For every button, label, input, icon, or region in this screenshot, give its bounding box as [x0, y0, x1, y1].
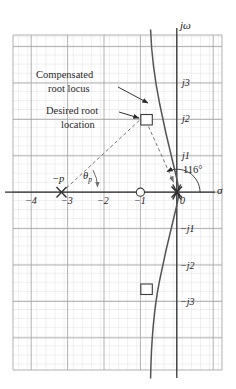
- tick-imag-minus-j3: −j3: [180, 297, 195, 307]
- annotation-desired-root-location-line1: Desired root: [46, 106, 98, 117]
- real-axis-label: σ: [217, 185, 222, 196]
- marker-desired-root-upper: [141, 115, 153, 126]
- root-locus-figure: jω σ Compensated root locus Desired root…: [0, 0, 236, 389]
- imaginary-axis-label: jω: [180, 20, 191, 31]
- marker-desired-root-lower: [141, 284, 153, 295]
- tick-real-minus-2: −2: [97, 196, 109, 206]
- theta-subscript: p: [88, 175, 92, 184]
- tick-real-minus-4: −4: [25, 196, 37, 206]
- tick-imag-j1: j1: [182, 151, 190, 161]
- angle-116-label: 116°: [183, 165, 203, 176]
- tick-real-minus-1: −1: [134, 196, 146, 206]
- tick-real-0: 0: [180, 196, 185, 206]
- tick-imag-minus-j1: −j1: [180, 224, 195, 234]
- tick-real-minus-3: −3: [61, 196, 73, 206]
- tick-imag-j2: j2: [182, 114, 190, 124]
- annotation-desired-root-location-line2: location: [61, 120, 95, 131]
- pole-label-minus-p: −p: [52, 174, 64, 185]
- annotation-compensated-root-locus-line1: Compensated: [36, 70, 93, 81]
- tick-imag-minus-j2: −j2: [180, 261, 195, 271]
- tick-imag-j3: j3: [182, 78, 190, 88]
- grid-minor: [13, 35, 222, 370]
- annotation-compensated-root-locus-line2: root locus: [48, 84, 90, 95]
- theta-p-label: θp: [83, 171, 92, 184]
